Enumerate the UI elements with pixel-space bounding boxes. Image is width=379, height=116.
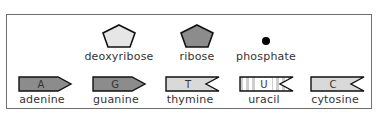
adenine-label: adenine xyxy=(19,93,65,106)
thymine-label: thymine xyxy=(167,93,214,106)
uracil-label: uracil xyxy=(248,93,280,106)
deoxyribose-pentagon-icon xyxy=(103,25,135,47)
uracil-base-icon: U xyxy=(240,77,293,91)
guanine-label: guanine xyxy=(93,93,139,106)
deoxyribose-label: deoxyribose xyxy=(84,50,153,63)
thymine-base-icon: T xyxy=(166,77,219,91)
adenine-base-icon: A xyxy=(19,77,71,91)
guanine-base-icon: G xyxy=(93,77,145,91)
cytosine-label: cytosine xyxy=(311,93,359,106)
cytosine-base-icon: C xyxy=(311,77,364,91)
ribose-pentagon-icon xyxy=(181,25,213,47)
uracil-letter: U xyxy=(260,79,267,90)
cytosine-letter: C xyxy=(330,79,337,90)
adenine-letter: A xyxy=(38,79,45,90)
thymine-letter: T xyxy=(184,79,192,90)
ribose-label: ribose xyxy=(180,50,215,63)
guanine-letter: G xyxy=(111,79,119,90)
phosphate-dot-icon xyxy=(262,37,270,45)
phosphate-label: phosphate xyxy=(236,50,296,63)
